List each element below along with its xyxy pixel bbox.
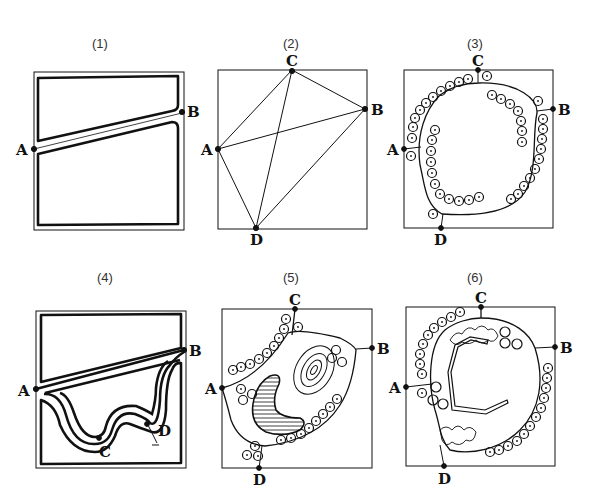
panel-3-point-b: B (558, 101, 571, 119)
panel-4-point-d: D (158, 422, 171, 440)
panel-2-point-c: C (286, 52, 298, 70)
panel-6-point-c: C (475, 289, 487, 307)
panel-1 (31, 72, 184, 230)
panel-3 (402, 68, 556, 231)
panel-6-point-b: B (560, 339, 573, 357)
panel-3-point-a: A (386, 141, 399, 159)
panel-5-point-d: D (253, 471, 266, 489)
panel-5-point-a: A (204, 380, 217, 398)
site-plan-figure: A B A B C D (0, 0, 591, 502)
panel-1-point-b: B (187, 103, 200, 121)
panel-1-point-a: A (15, 141, 28, 159)
panel-2-point-a: A (200, 141, 213, 159)
panel-2-point-b: B (371, 101, 384, 119)
panel-6-point-a: A (388, 379, 401, 397)
panel-5-point-c: C (289, 291, 301, 309)
panel-6-point-d: D (438, 470, 451, 488)
panel-2 (215, 68, 367, 230)
panel-5-point-b: B (377, 340, 390, 358)
panel-4-point-c: C (99, 443, 111, 461)
panel-4-point-b: B (189, 342, 202, 360)
panel-3-point-d: D (434, 231, 447, 249)
panel-3-point-c: C (472, 52, 484, 70)
panel-5 (220, 307, 375, 471)
panel-4-point-a: A (17, 382, 30, 400)
panel-2-point-d: D (250, 231, 263, 249)
panel-6 (404, 305, 558, 469)
